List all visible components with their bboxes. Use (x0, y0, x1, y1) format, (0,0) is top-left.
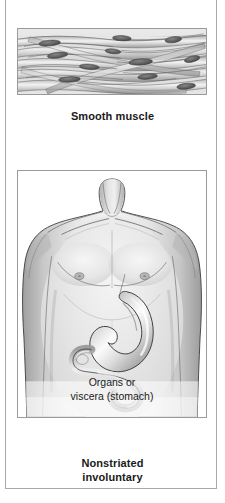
smooth-muscle-panel (17, 28, 207, 95)
bottom-caption: Nonstriated involuntary (0, 456, 225, 484)
organ-caption-line-2: viscera (stomach) (18, 389, 206, 403)
smooth-muscle-caption: Smooth muscle (0, 110, 225, 122)
bottom-caption-line-1: Nonstriated (0, 456, 225, 470)
organ-caption: Organs or viscera (stomach) (18, 375, 206, 403)
torso-panel: Organs or viscera (stomach) (17, 170, 207, 418)
organ-caption-line-1: Organs or (18, 375, 206, 389)
smooth-muscle-tissue-illustration (18, 29, 206, 94)
smooth-muscle-figure: Smooth muscle (0, 0, 225, 503)
bottom-caption-line-2: involuntary (0, 470, 225, 484)
